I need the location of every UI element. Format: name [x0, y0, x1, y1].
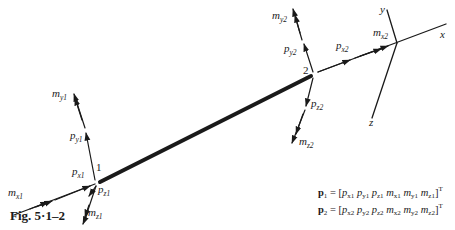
- figure-caption: Fig. 5·1–2: [10, 209, 65, 222]
- z-axis-line: [372, 43, 397, 118]
- label-mx1: mx1: [8, 187, 23, 201]
- px1-arrow: [55, 186, 90, 200]
- label-px2: px2: [336, 40, 349, 54]
- label-mz2: mz2: [299, 136, 314, 150]
- label-my1: my1: [52, 88, 67, 102]
- label-py1: py1: [70, 130, 83, 144]
- beam-element: [100, 76, 311, 182]
- node-2-label: 2: [303, 65, 309, 76]
- label-mx2: mx2: [373, 27, 388, 41]
- axis-y-label: y: [380, 4, 385, 15]
- y-axis-line: [387, 10, 397, 43]
- mx2-arrow-2: [360, 46, 388, 56]
- mx1-arrow-2: [36, 201, 52, 207]
- eq1-terms: px1 py1 pz1 mx1 my1 mz1: [342, 187, 435, 198]
- axis-z-label: z: [369, 117, 373, 128]
- px2-arrow: [318, 60, 350, 72]
- my1-arrow-2: [75, 98, 82, 120]
- label-my2: my2: [272, 10, 287, 24]
- label-px1: px1: [72, 166, 85, 180]
- equation-p1: p1 = [px1 py1 pz1 mx1 my1 mz1]T: [318, 186, 443, 200]
- node-1-label: 1: [96, 162, 102, 173]
- my2-arrow-2: [295, 15, 300, 33]
- equation-p2: p2 = [px2 py2 pz2 mx2 my2 mz2]T: [318, 203, 443, 217]
- label-pz2: pz2: [311, 98, 323, 112]
- axis-x-label: x: [440, 29, 445, 40]
- label-pz1: pz1: [98, 184, 110, 198]
- py1-arrow: [86, 133, 95, 180]
- label-mz1: mz1: [88, 207, 103, 221]
- mz2-arrow-2: [296, 114, 303, 134]
- label-py2: py2: [284, 43, 297, 57]
- eq2-terms: px2 py2 pz2 mx2 my2 mz2: [342, 204, 435, 215]
